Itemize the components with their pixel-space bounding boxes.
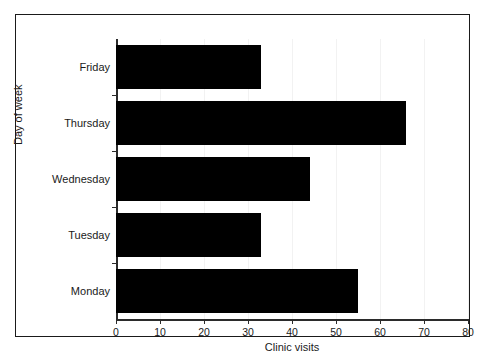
- x-axis-tick: [248, 319, 249, 324]
- x-axis-tick: [160, 319, 161, 324]
- y-axis-tick-label: Tuesday: [18, 229, 110, 241]
- x-axis-tick-label: 70: [418, 326, 430, 338]
- y-axis-tick-label: Wednesday: [18, 173, 110, 185]
- x-axis-tick: [336, 319, 337, 324]
- x-axis-tick: [468, 319, 469, 324]
- x-axis-tick-label: 30: [242, 326, 254, 338]
- x-axis-title: Clinic visits: [116, 341, 468, 353]
- y-axis-tick-label: Friday: [18, 61, 110, 73]
- y-axis-tick-label: Thursday: [18, 117, 110, 129]
- x-axis-tick: [116, 319, 117, 324]
- x-axis-tick: [204, 319, 205, 324]
- bar[interactable]: [116, 213, 261, 257]
- figure-frame: 01020304050607080 FridayThursdayWednesda…: [15, 14, 470, 337]
- x-axis-tick-label: 60: [374, 326, 386, 338]
- x-axis-tick: [380, 319, 381, 324]
- x-axis-tick-label: 80: [462, 326, 474, 338]
- x-axis-tick-label: 0: [113, 326, 119, 338]
- x-axis-tick: [424, 319, 425, 324]
- bar[interactable]: [116, 101, 406, 145]
- x-axis-tick-label: 40: [286, 326, 298, 338]
- y-axis-tick-label: Monday: [18, 285, 110, 297]
- bar[interactable]: [116, 269, 358, 313]
- bar[interactable]: [116, 45, 261, 89]
- bar-row: Thursday: [116, 95, 468, 151]
- bar-row: Tuesday: [116, 207, 468, 263]
- y-axis-title: Day of week: [12, 84, 24, 145]
- bar-row: Friday: [116, 39, 468, 95]
- y-axis-tick: [112, 207, 116, 208]
- x-axis-tick-label: 10: [154, 326, 166, 338]
- y-axis-tick: [112, 151, 116, 152]
- plot-area: FridayThursdayWednesdayTuesdayMonday: [116, 39, 468, 319]
- x-axis-tick-label: 50: [330, 326, 342, 338]
- bar-row: Wednesday: [116, 151, 468, 207]
- bar[interactable]: [116, 157, 310, 201]
- y-axis-tick: [112, 263, 116, 264]
- x-axis-tick-label: 20: [198, 326, 210, 338]
- x-axis-tick: [292, 319, 293, 324]
- gridline: [468, 39, 469, 319]
- y-axis-tick: [112, 95, 116, 96]
- bar-row: Monday: [116, 263, 468, 319]
